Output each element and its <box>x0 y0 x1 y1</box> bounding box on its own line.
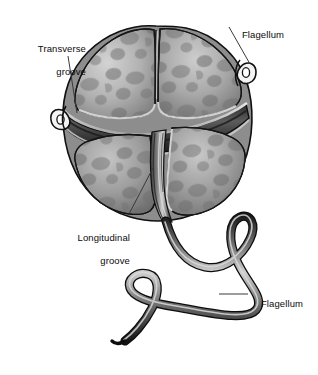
label-longitudinal-groove: Longitudinal groove <box>44 220 130 278</box>
label-flagellum-bottom: Flagellum <box>250 286 316 321</box>
label-transverse-groove: Transverse groove <box>8 31 86 89</box>
longitudinal-flagellum <box>112 215 259 343</box>
label-flagellum-top: Flagellum <box>231 17 311 52</box>
label-transverse-groove-line1: Transverse <box>38 43 86 54</box>
label-longitudinal-groove-line1: Longitudinal <box>78 232 130 243</box>
label-flagellum-top-text: Flagellum <box>242 29 284 40</box>
label-transverse-groove-line2: groove <box>56 66 86 77</box>
label-flagellum-bottom-text: Flagellum <box>261 298 303 309</box>
label-longitudinal-groove-line2: groove <box>100 255 130 266</box>
dinoflagellate-figure: Transverse groove Flagellum Longitudinal… <box>0 0 318 375</box>
